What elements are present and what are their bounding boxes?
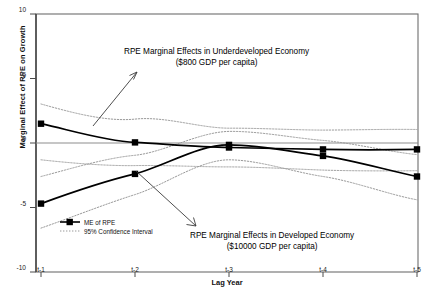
y-axis-title-text: Marginal Effect of RPE on Growth xyxy=(18,25,27,148)
developed-annotation-line1: RPE Marginal Effects in Developed Econom… xyxy=(190,230,354,241)
x-tick-label-t4: t-4 xyxy=(308,266,338,273)
x-tick-label-t2: t-2 xyxy=(120,266,150,273)
x-axis-title: Lag Year xyxy=(36,278,418,287)
developed-annotation: RPE Marginal Effects in Developed Econom… xyxy=(190,230,354,252)
y-tick-label-0: 0 xyxy=(6,135,26,142)
underdeveloped-annotation: RPE Marginal Effects in Underdeveloped E… xyxy=(124,46,309,68)
underdeveloped-annotation-line1: RPE Marginal Effects in Underdeveloped E… xyxy=(124,46,309,57)
developed-annotation-line2: ($10000 GDP per capita) xyxy=(190,241,354,252)
y-tick-label-minus-10: -10 xyxy=(6,264,26,271)
x-tick-label-t5: t-5 xyxy=(402,266,432,273)
x-axis-title-text: Lag Year xyxy=(211,278,242,287)
y-axis-title: Marginal Effect of RPE on Growth xyxy=(18,7,32,167)
y-tick-label-10: 10 xyxy=(6,6,26,13)
x-tick-label-t1: t-1 xyxy=(26,266,56,273)
legend-label-me-of-rpe: ME of RPE xyxy=(84,219,115,226)
legend-me-marker xyxy=(67,219,73,225)
legend-label-confidence-interval: 95% Confidence Interval xyxy=(84,228,153,235)
y-tick-label-5: 5 xyxy=(6,71,26,78)
chart-figure: Marginal Effect of RPE on Growth Lag Yea… xyxy=(0,0,440,293)
y-tick-label-minus-5: -5 xyxy=(6,200,26,207)
underdeveloped-annotation-line2: ($800 GDP per capita) xyxy=(124,57,309,68)
x-tick-label-t3: t-3 xyxy=(214,266,244,273)
